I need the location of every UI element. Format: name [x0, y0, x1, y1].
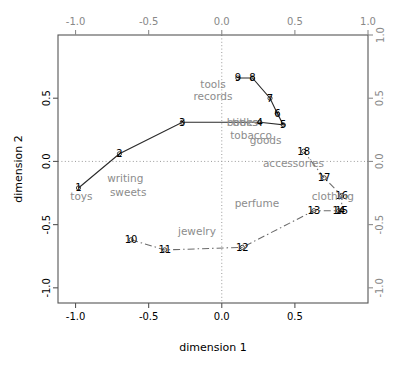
right-tick-label: -1.0: [375, 278, 386, 298]
category-label: goods: [250, 134, 282, 146]
category-label: jewelry: [177, 225, 216, 237]
data-point-label: 5: [280, 119, 286, 130]
right-tick-label: -0.5: [375, 215, 386, 235]
data-point-label: 6: [274, 108, 280, 119]
data-point-label: 7: [267, 93, 273, 104]
data-point-label: 10: [125, 234, 138, 245]
data-point-label: 17: [318, 172, 331, 183]
left-tick-label: 0.0: [42, 153, 53, 169]
data-point-label: 12: [236, 242, 249, 253]
axis-tick-labels-group: -1.0-0.50.00.50.50.0-0.5-1.0-1.0-0.50.00…: [42, 16, 386, 322]
x-axis-title: dimension 1: [179, 341, 246, 354]
category-label: sweets: [110, 186, 147, 198]
category-label: perfume: [235, 197, 279, 209]
right-tick-label: 1.0: [375, 27, 386, 43]
category-label: writing: [107, 172, 143, 184]
y-axis-title: dimension 2: [12, 135, 25, 202]
category-label: toys: [70, 190, 92, 202]
data-point-label: 2: [116, 148, 122, 159]
left-tick-label: 0.5: [42, 90, 53, 106]
top-tick-label: -1.0: [66, 16, 86, 27]
bottom-tick-label: 0.5: [287, 311, 303, 322]
data-point-label: 13: [308, 205, 321, 216]
data-point-label: 3: [179, 117, 185, 128]
bottom-tick-label: 0.0: [214, 311, 230, 322]
right-tick-label: 0.5: [375, 90, 386, 106]
bottom-tick-label: -0.5: [139, 311, 159, 322]
top-tick-label: 0.5: [287, 16, 303, 27]
data-point-label: 18: [297, 146, 310, 157]
plot-frame: [58, 35, 368, 303]
top-tick-label: 1.0: [360, 16, 376, 27]
category-label: accessories: [263, 157, 324, 169]
data-point-label: 15: [335, 205, 348, 216]
category-label: tools: [200, 78, 225, 90]
plot-canvas: -1.0-0.50.00.50.50.0-0.5-1.0-1.0-0.50.00…: [0, 0, 411, 369]
data-point-label: 8: [249, 72, 255, 83]
bottom-tick-label: -1.0: [66, 311, 86, 322]
scatter-plot-figure: -1.0-0.50.00.50.50.0-0.5-1.0-1.0-0.50.00…: [0, 0, 411, 369]
data-point-label: 11: [158, 244, 171, 255]
left-tick-label: -1.0: [42, 278, 53, 298]
top-tick-label: 0.0: [214, 16, 230, 27]
reference-lines-group: [58, 35, 368, 303]
plot-box: [58, 35, 368, 303]
category-label: titles: [232, 116, 258, 128]
right-tick-label: 0.0: [375, 153, 386, 169]
data-point-label: 9: [235, 72, 241, 83]
left-tick-label: -0.5: [42, 215, 53, 235]
top-tick-label: -0.5: [139, 16, 159, 27]
category-label: records: [193, 90, 232, 102]
category-label: clothing: [312, 190, 354, 202]
